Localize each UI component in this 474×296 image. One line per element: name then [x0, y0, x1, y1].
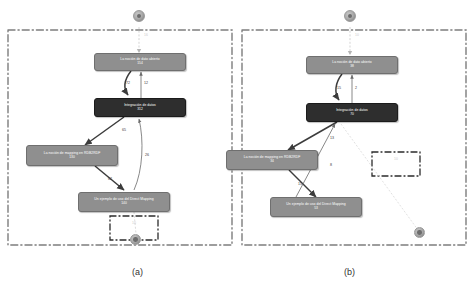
- node-value: 53: [314, 207, 318, 210]
- panel-a-edge-label-26: 26: [145, 153, 149, 157]
- panel-b-edge-label-8: 8: [330, 163, 332, 167]
- panel-b-node-mapping-rdb2rdf[interactable]: La noción de mapping en RDB2RDF 34: [226, 150, 318, 170]
- panel-b-caption: (b): [344, 267, 355, 277]
- panel-b-edge-label-2: 2: [355, 86, 357, 90]
- panel-b-inner-box-label: 10: [394, 157, 398, 161]
- panel-a-node-integracion[interactable]: Integración de datos 312: [94, 98, 186, 117]
- node-value: 312: [137, 108, 143, 111]
- panel-a-entry-edge-label: 16: [144, 33, 148, 37]
- panel-a-inner-box-label: 10: [132, 221, 136, 225]
- panel-b-edge-mapping-direct: [289, 170, 316, 197]
- node-value: 140: [121, 202, 127, 205]
- panel-b-inner-box: [372, 152, 420, 176]
- panel-a-edge-integracion-mapping: [85, 117, 124, 145]
- panel-a-sink-node[interactable]: [130, 234, 141, 245]
- panel-b-node-dato-abierto[interactable]: La noción de dato abierto 38: [306, 56, 398, 74]
- panel-a-edge-label-72: 72: [126, 81, 130, 85]
- panel-b-node-direct-mapping[interactable]: Un ejemplo de uso del Direct Mapping 53: [270, 197, 362, 217]
- node-value: 154: [137, 62, 143, 65]
- panel-a-edge-label-62: 62: [108, 177, 112, 181]
- panel-a-source-node[interactable]: [133, 10, 145, 22]
- panel-b-node-integracion[interactable]: Integración de datos 70: [306, 103, 398, 122]
- panel-b-edge-label-13: 13: [330, 136, 334, 140]
- panel-a-edge-direct-integracion: [134, 119, 142, 190]
- panel-a-node-mapping-rdb2rdf[interactable]: La noción de mapping en RDB2RDF 130: [26, 145, 118, 166]
- figure-container: 16 La noción de dato abierto 154 Integra…: [0, 0, 474, 296]
- node-value: 70: [350, 113, 354, 116]
- node-value: 34: [270, 160, 274, 163]
- panel-b-entry-edge-label: 10: [355, 33, 359, 37]
- panel-b-edge-label-15a: 15: [337, 86, 341, 90]
- panel-a-node-dato-abierto[interactable]: La noción de dato abierto 154: [94, 53, 186, 71]
- panel-b-sink-node[interactable]: [414, 227, 425, 238]
- panel-a-edge-label-12: 12: [144, 81, 148, 85]
- node-value: 38: [350, 65, 354, 68]
- node-value: 130: [69, 156, 75, 159]
- panel-b-source-node[interactable]: [344, 10, 356, 22]
- panel-a-node-direct-mapping[interactable]: Un ejemplo de uso del Direct Mapping 140: [78, 192, 170, 212]
- panel-a-edge-label-65: 65: [122, 128, 126, 132]
- panel-b-edge-label-15b: 15: [298, 182, 302, 186]
- panel-a-caption: (a): [132, 267, 143, 277]
